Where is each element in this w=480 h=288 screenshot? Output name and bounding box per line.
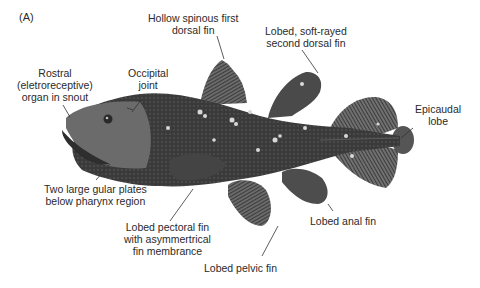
label-occipital-joint: Occipital joint [128,67,168,91]
label-second-dorsal-fin: Lobed, soft-rayed second dorsal fin [265,25,347,49]
pelvic-fin [228,180,271,226]
coelacanth-figure: (A) [0,0,480,288]
first-dorsal-fin [200,60,247,105]
label-pelvic-fin: Lobed pelvic fin [204,262,277,274]
label-epicaudal-lobe: Epicaudal lobe [415,103,461,127]
label-rostral-organ: Rostral (eletroreceptive) organ in snout [17,67,93,103]
anal-fin [282,169,328,204]
label-anal-fin: Lobed anal fin [310,215,376,227]
second-dorsal-fin [268,72,321,118]
label-first-dorsal-fin: Hollow spinous first dorsal fin [148,12,238,36]
label-pectoral-fin: Lobed pectoral fin with asymmertrical fi… [124,221,211,257]
eye [104,115,113,124]
coelacanth-illustration [0,0,480,288]
label-gular-plates: Two large gular plates below pharynx reg… [44,183,147,207]
